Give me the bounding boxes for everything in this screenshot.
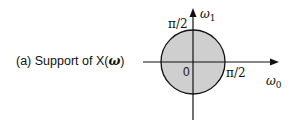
horizontal-axis-arrow-icon [270, 59, 279, 66]
top-tick-label: π/2 [168, 17, 188, 31]
vertical-axis-arrow-icon [190, 8, 197, 17]
omega1-label: ω1 [200, 7, 216, 23]
omega0-label: ω0 [266, 74, 282, 90]
right-tick-label: π/2 [226, 66, 246, 80]
frequency-support-diagram: ω1 ω0 π/2 π/2 0 [0, 0, 299, 122]
origin-label: 0 [183, 65, 190, 79]
